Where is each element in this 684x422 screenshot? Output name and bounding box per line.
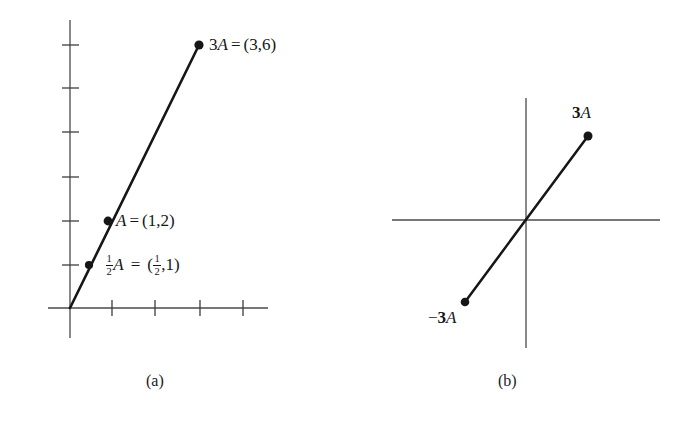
panel-a-axes bbox=[48, 20, 268, 338]
vector-scalar-multiple-figure: 3A=(3,6) A=(1,2) 12A=(12,1) 3A −3A (a) (… bbox=[0, 0, 684, 422]
panel-a-point-3a bbox=[194, 40, 203, 49]
label-half-a-equals-half-1: 12A=(12,1) bbox=[105, 254, 180, 278]
fraction-one-half-rhs: 12 bbox=[153, 254, 160, 278]
label-negative-3a: −3A bbox=[428, 309, 456, 326]
panel-b-point-3a bbox=[584, 132, 593, 141]
figure-canvas bbox=[0, 0, 684, 422]
caption-panel-a: (a) bbox=[146, 372, 164, 390]
label-3a: 3A bbox=[572, 104, 591, 121]
panel-a-point-a bbox=[104, 217, 113, 226]
label-3a-equals-3-6: 3A=(3,6) bbox=[209, 36, 276, 53]
caption-panel-b: (b) bbox=[498, 372, 517, 390]
panel-a-point-half-a bbox=[85, 261, 93, 269]
label-a-equals-1-2: A=(1,2) bbox=[116, 212, 175, 229]
panel-b-point-neg-3a bbox=[461, 298, 470, 307]
fraction-one-half-lhs: 12 bbox=[106, 254, 113, 278]
